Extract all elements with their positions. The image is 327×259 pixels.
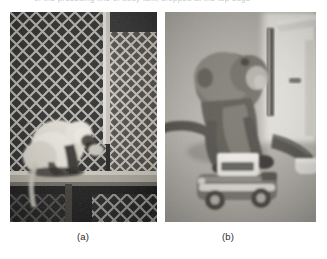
photo-panel-b xyxy=(165,12,316,222)
photo-b-image xyxy=(165,12,316,222)
figure-caption-b: (b) xyxy=(203,231,253,242)
photo-panel-a xyxy=(10,12,157,222)
figure-two-panel-monkey-photographs: (a) (b) xyxy=(0,0,327,259)
figure-caption-a: (a) xyxy=(58,231,108,242)
photo-a-image xyxy=(10,12,157,222)
